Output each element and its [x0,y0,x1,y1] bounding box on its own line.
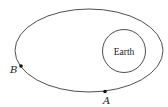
elliptical-orbit [15,9,163,92]
earth-label: Earth [114,47,135,57]
point-b-label: B [9,64,17,75]
point-b-marker [19,64,23,68]
point-a-label: A [102,95,110,106]
orbit-diagram: Earth B A [0,0,168,107]
point-a-marker [103,90,107,94]
